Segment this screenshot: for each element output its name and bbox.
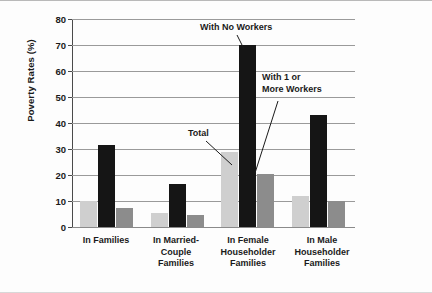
- bar: [187, 215, 204, 227]
- y-tick-label: 10: [20, 196, 66, 207]
- x-category-label-female-householder: In Female Householder Families: [214, 235, 282, 270]
- y-tick-label: 20: [20, 170, 66, 181]
- category-line: Families: [214, 258, 282, 270]
- annotation-text: With No Workers: [200, 21, 272, 33]
- bar: [310, 115, 327, 227]
- gridline: [72, 45, 355, 46]
- bar: [169, 184, 186, 227]
- category-line: In Families: [72, 235, 140, 247]
- bar: [151, 213, 168, 227]
- plot-area: [72, 19, 355, 227]
- x-category-label-married-couple: In Married-Couple Families: [140, 235, 212, 270]
- annotation-with-no-workers: With No Workers: [200, 21, 272, 33]
- x-category-label-male-householder: In Male Householder Families: [288, 235, 356, 270]
- annotation-total: Total: [188, 127, 209, 139]
- y-tick-label: 60: [20, 66, 66, 77]
- category-line: Householder: [214, 247, 282, 259]
- y-tick-label: 50: [20, 92, 66, 103]
- category-line: Families: [288, 258, 356, 270]
- axis-baseline: [72, 227, 355, 228]
- x-category-label-families: In Families: [72, 235, 140, 247]
- annotation-text: Total: [188, 127, 209, 139]
- bar: [98, 145, 115, 227]
- category-line: In Female: [214, 235, 282, 247]
- bar: [80, 201, 97, 227]
- y-tick-label: 0: [20, 222, 66, 233]
- annotation-text: More Workers: [262, 83, 322, 95]
- category-line: In Male: [288, 235, 356, 247]
- category-line: Householder: [288, 247, 356, 259]
- y-tick-label: 30: [20, 144, 66, 155]
- bar: [292, 196, 309, 227]
- gridline: [72, 97, 355, 98]
- y-tick-label: 70: [20, 40, 66, 51]
- y-tick-label: 80: [20, 14, 66, 25]
- category-line: Families: [140, 258, 212, 270]
- chart-figure: Poverty Rates (%) 80 70 60 50 40 30 20 1…: [0, 0, 432, 293]
- y-axis-tick-labels: 80 70 60 50 40 30 20 10 0: [0, 1, 66, 293]
- annotation-text: With 1 or: [262, 71, 322, 83]
- annotation-with-one-or-more-workers: With 1 or More Workers: [262, 71, 322, 95]
- bar: [239, 45, 256, 227]
- bar: [328, 201, 345, 227]
- category-line: In Married-Couple: [140, 235, 212, 258]
- bar: [116, 208, 133, 228]
- y-tick-label: 40: [20, 118, 66, 129]
- bar: [257, 174, 274, 227]
- bar: [221, 152, 238, 227]
- gridline: [72, 19, 355, 20]
